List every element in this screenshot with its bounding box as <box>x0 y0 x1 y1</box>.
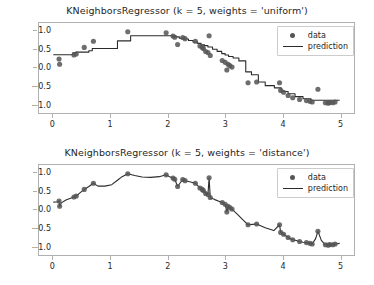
data-point <box>290 237 295 242</box>
x-tick-label: 3 <box>223 262 228 271</box>
legend-prediction-line-icon <box>282 188 304 189</box>
x-tick-label: 0 <box>50 262 55 271</box>
x-tick-mark <box>341 114 342 118</box>
data-point <box>310 242 315 247</box>
data-point <box>91 181 96 186</box>
data-point <box>286 93 291 98</box>
data-point <box>310 100 315 105</box>
legend-prediction-label: prediction <box>308 183 348 194</box>
x-tick-mark <box>283 114 284 118</box>
x-tick-mark <box>225 256 226 260</box>
x-tick-label: 1 <box>107 262 112 271</box>
data-point <box>297 239 302 244</box>
legend-data-label: data <box>308 30 326 41</box>
data-point <box>164 30 169 35</box>
legend-item-prediction: prediction <box>282 41 348 52</box>
x-tick-mark <box>110 256 111 260</box>
data-point <box>91 39 96 44</box>
chart-title-uniform: KNeighborsRegressor (k = 5, weights = 'u… <box>0 5 374 16</box>
x-tick-label: 5 <box>338 262 343 271</box>
data-point <box>175 184 180 189</box>
data-point <box>172 177 177 182</box>
y-tick-mark <box>33 209 37 210</box>
x-tick-mark <box>52 114 53 118</box>
data-point <box>182 36 187 41</box>
x-tick-label: 0 <box>50 120 55 129</box>
subplot-distance: KNeighborsRegressor (k = 5, weights = 'd… <box>0 142 374 284</box>
data-point <box>315 229 320 234</box>
data-point <box>193 181 198 186</box>
data-point <box>125 171 130 176</box>
data-point <box>82 187 87 192</box>
data-point <box>207 33 212 38</box>
y-tick-mark <box>33 49 37 50</box>
data-point <box>125 29 130 34</box>
data-point <box>281 232 286 237</box>
data-point <box>315 87 320 92</box>
legend-prediction-label: prediction <box>308 41 348 52</box>
data-point <box>57 204 62 209</box>
data-point <box>281 90 286 95</box>
data-point <box>74 51 79 56</box>
x-tick-label: 1 <box>107 120 112 129</box>
data-point <box>164 172 169 177</box>
data-point <box>193 39 198 44</box>
data-point <box>182 178 187 183</box>
data-point <box>74 193 79 198</box>
x-tick-mark <box>110 114 111 118</box>
x-tick-label: 3 <box>223 120 228 129</box>
data-point <box>172 35 177 40</box>
data-point <box>245 222 250 227</box>
data-point <box>333 100 338 105</box>
data-point <box>56 57 61 62</box>
subplot-uniform: KNeighborsRegressor (k = 5, weights = 'u… <box>0 0 374 142</box>
data-point <box>56 199 61 204</box>
x-tick-mark <box>283 256 284 260</box>
x-tick-mark <box>168 114 169 118</box>
legend-prediction-line-icon <box>282 46 304 47</box>
data-point <box>224 209 229 214</box>
x-tick-label: 2 <box>165 120 170 129</box>
y-tick-mark <box>33 172 37 173</box>
y-tick-mark <box>33 191 37 192</box>
x-tick-mark <box>52 256 53 260</box>
legend-data-marker-icon <box>282 175 304 180</box>
chart-title-distance: KNeighborsRegressor (k = 5, weights = 'd… <box>0 147 374 158</box>
y-tick-mark <box>33 30 37 31</box>
data-point <box>277 222 282 227</box>
legend-distance: data prediction <box>277 168 354 198</box>
data-point <box>229 65 234 70</box>
data-point <box>254 221 259 226</box>
y-tick-mark <box>33 105 37 106</box>
x-tick-label: 2 <box>165 262 170 271</box>
data-point <box>290 95 295 100</box>
legend-data-label: data <box>308 172 326 183</box>
legend-item-data: data <box>282 172 348 183</box>
data-point <box>175 42 180 47</box>
data-point <box>286 235 291 240</box>
y-tick-mark <box>33 247 37 248</box>
legend-data-marker-icon <box>282 33 304 38</box>
data-point <box>224 67 229 72</box>
data-point <box>333 242 338 247</box>
legend-item-prediction: prediction <box>282 183 348 194</box>
legend-uniform: data prediction <box>277 26 354 56</box>
data-point <box>207 175 212 180</box>
data-point <box>208 53 213 58</box>
matplotlib-figure: KNeighborsRegressor (k = 5, weights = 'u… <box>0 0 374 285</box>
y-tick-mark <box>33 228 37 229</box>
x-tick-label: 4 <box>280 262 285 271</box>
x-tick-mark <box>168 256 169 260</box>
data-point <box>245 80 250 85</box>
data-point <box>57 62 62 67</box>
x-tick-mark <box>341 256 342 260</box>
x-tick-mark <box>225 114 226 118</box>
data-point <box>254 79 259 84</box>
data-point <box>82 45 87 50</box>
data-point <box>277 80 282 85</box>
legend-item-data: data <box>282 30 348 41</box>
data-point <box>297 97 302 102</box>
data-point <box>208 195 213 200</box>
data-point <box>229 207 234 212</box>
x-tick-label: 5 <box>338 120 343 129</box>
